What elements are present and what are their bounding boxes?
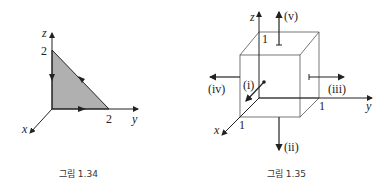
x-tick-label: 1 xyxy=(239,118,245,132)
cube-edge xyxy=(240,32,259,55)
z-axis-label: z xyxy=(41,26,47,40)
x-axis xyxy=(30,109,52,133)
figure-caption: 그림 1.35 xyxy=(267,168,306,179)
y-tick-label: 1 xyxy=(319,99,325,113)
z-tick-label: 1 xyxy=(262,32,268,46)
x-axis-label: x xyxy=(21,122,28,136)
diagram-canvas: z 2 2 y x 그림 1.34 z y x 1 1 1 (v) (ii) xyxy=(0,0,389,193)
arrow-iv-label: (iv) xyxy=(208,82,225,96)
figure-1-34: z 2 2 y x 그림 1.34 xyxy=(21,26,138,179)
cube-edge xyxy=(300,32,319,55)
z-intercept-label: 2 xyxy=(41,44,47,58)
figure-1-35: z y x 1 1 1 (v) (ii) (iii) (iv) (i) 그림 1… xyxy=(208,9,372,179)
figure-caption: 그림 1.34 xyxy=(59,168,98,179)
arrow-i-label: (i) xyxy=(243,78,254,92)
arrow-ii-label: (ii) xyxy=(284,140,299,154)
cube-edge xyxy=(300,98,319,117)
y-axis-label: y xyxy=(365,99,372,113)
arrow-v-label: (v) xyxy=(284,9,298,23)
arrow-iii-label: (iii) xyxy=(328,82,346,96)
z-axis-label: z xyxy=(249,10,255,24)
y-intercept-label: 2 xyxy=(106,112,112,126)
y-axis-label: y xyxy=(131,112,138,126)
x-axis-label: x xyxy=(213,123,220,137)
